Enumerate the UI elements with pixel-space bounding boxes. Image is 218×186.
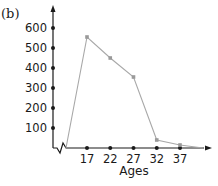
x-tick-dot bbox=[85, 146, 89, 150]
line-chart: 100200300400500600 1722273237 Ages bbox=[0, 0, 218, 186]
data-point-marker bbox=[155, 138, 159, 142]
y-tick-label: 400 bbox=[25, 61, 47, 75]
x-tick-label: 17 bbox=[80, 152, 95, 166]
y-tick-dot bbox=[51, 106, 55, 110]
data-point-marker bbox=[108, 56, 112, 60]
x-tick-dot bbox=[108, 146, 112, 150]
y-tick-dot bbox=[51, 26, 55, 30]
y-axis-arrow-icon bbox=[51, 5, 56, 12]
x-tick-label: 32 bbox=[149, 152, 164, 166]
x-ticks: 1722273237 bbox=[80, 146, 188, 166]
y-tick-label: 200 bbox=[25, 101, 47, 115]
data-point-marker bbox=[132, 75, 136, 79]
x-tick-label: 22 bbox=[103, 152, 118, 166]
series-line bbox=[66, 35, 203, 148]
x-tick-dot bbox=[132, 146, 136, 150]
y-tick-label: 500 bbox=[25, 41, 47, 55]
x-axis-arrow-icon bbox=[205, 146, 212, 151]
y-tick-dot bbox=[51, 126, 55, 130]
y-tick-dot bbox=[51, 86, 55, 90]
x-tick-label: 37 bbox=[173, 152, 188, 166]
data-line bbox=[66, 37, 203, 148]
data-point-marker bbox=[178, 143, 182, 147]
y-tick-label: 300 bbox=[25, 81, 47, 95]
data-point-marker bbox=[85, 35, 89, 39]
x-axis-title: Ages bbox=[119, 164, 148, 178]
x-tick-dot bbox=[155, 146, 159, 150]
y-tick-label: 600 bbox=[25, 21, 47, 35]
y-tick-dot bbox=[51, 66, 55, 70]
y-tick-label: 100 bbox=[25, 121, 47, 135]
y-ticks: 100200300400500600 bbox=[25, 21, 55, 135]
y-tick-dot bbox=[51, 46, 55, 50]
